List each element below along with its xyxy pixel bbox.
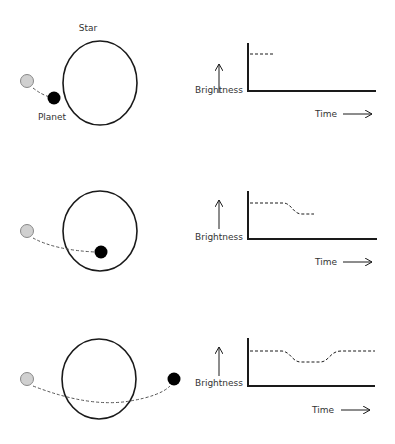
- time-label: Time: [311, 405, 334, 415]
- time-label: Time: [314, 257, 337, 267]
- orbit-path: [33, 88, 50, 97]
- planet-icon: [168, 373, 181, 386]
- panel-2: Brightness Time: [21, 191, 378, 271]
- brightness-curve: [250, 351, 375, 362]
- panel-1: Star Planet Brightness Time: [21, 23, 377, 125]
- star-circle: [63, 41, 137, 125]
- planet-label: Planet: [38, 112, 67, 122]
- brightness-label: Brightness: [195, 85, 243, 95]
- brightness-curve: [250, 203, 314, 214]
- star-label: Star: [79, 23, 98, 33]
- transit-diagram: Star Planet Brightness Time Brightness T…: [0, 0, 395, 444]
- axes: [248, 191, 377, 239]
- planet-icon: [48, 92, 61, 105]
- axes: [248, 43, 376, 91]
- ghost-planet-icon: [21, 75, 34, 88]
- star-circle: [63, 191, 137, 271]
- brightness-label: Brightness: [195, 232, 243, 242]
- ghost-planet-icon: [21, 225, 34, 238]
- ghost-planet-icon: [21, 373, 34, 386]
- time-label: Time: [314, 109, 337, 119]
- panel-3: Brightness Time: [21, 338, 376, 419]
- star-circle: [62, 339, 136, 419]
- brightness-label: Brightness: [195, 378, 243, 388]
- planet-icon: [95, 246, 108, 259]
- orbit-path: [33, 386, 170, 403]
